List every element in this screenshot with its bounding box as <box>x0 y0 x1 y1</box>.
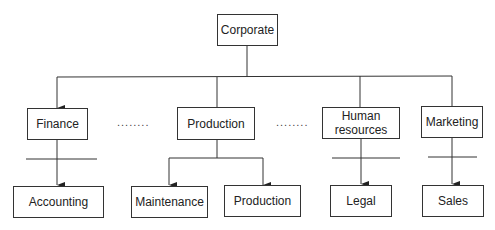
node-production: Production <box>177 107 255 140</box>
node-label: Finance <box>36 117 79 131</box>
node-accounting: Accounting <box>13 186 104 218</box>
node-marketing: Marketing <box>421 106 483 138</box>
node-maintenance: Maintenance <box>131 186 208 218</box>
node-label-line-1: Human <box>342 109 381 123</box>
ellipsis-1: ........ <box>117 116 149 128</box>
node-human-resources: Human resources <box>322 107 400 139</box>
node-label: Production <box>187 117 244 131</box>
node-label: Legal <box>346 194 375 208</box>
node-sales: Sales <box>422 185 484 217</box>
node-label: Production <box>234 194 291 208</box>
node-label: Sales <box>438 194 468 208</box>
ellipsis-2: ........ <box>276 116 308 128</box>
node-corporate: Corporate <box>217 14 278 46</box>
node-label: Maintenance <box>135 195 204 209</box>
node-label: Marketing <box>426 115 479 129</box>
node-production-sub: Production <box>224 185 301 217</box>
node-label: Accounting <box>29 195 88 209</box>
org-chart: Corporate Finance ........ Production ..… <box>0 0 495 230</box>
node-legal: Legal <box>330 185 392 217</box>
node-label: Corporate <box>221 23 274 37</box>
node-label-line-2: resources <box>335 123 388 137</box>
node-finance: Finance <box>27 108 88 140</box>
